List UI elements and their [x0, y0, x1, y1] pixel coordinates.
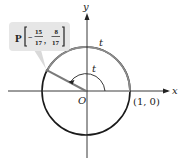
x-denominator: 17 — [35, 39, 43, 47]
angle-arc-t — [70, 74, 105, 91]
label-pointer — [34, 50, 46, 69]
unit-circle-diagram: P − 15 17 , 8 17 y x O (1, 0) t t — [0, 0, 179, 158]
x-sign: − — [28, 33, 33, 42]
radius-to-p — [47, 70, 86, 91]
coord-comma: , — [44, 36, 46, 45]
outer-arc-label-t: t — [99, 37, 104, 48]
origin-label: O — [78, 95, 86, 106]
arc-t-highlight — [47, 47, 130, 91]
y-axis-arrow-icon — [85, 13, 90, 20]
point-p-name: P — [15, 32, 22, 44]
inner-angle-label-t: t — [92, 63, 97, 74]
y-numerator: 8 — [55, 28, 59, 36]
point-one-zero-label: (1, 0) — [133, 96, 160, 107]
y-axis-label: y — [82, 1, 89, 12]
x-axis-label: x — [172, 85, 178, 96]
point-p-marker — [46, 69, 49, 72]
x-axis-arrow-icon — [163, 89, 170, 94]
x-numerator: 15 — [35, 28, 43, 36]
y-denominator: 17 — [52, 39, 60, 47]
